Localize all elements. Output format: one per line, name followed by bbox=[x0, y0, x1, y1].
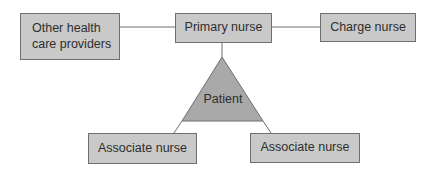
primary-nurse-label: Primary nurse bbox=[185, 20, 263, 36]
charge-nurse-node: Charge nurse bbox=[320, 13, 416, 42]
associate-nurse-right-node: Associate nurse bbox=[250, 133, 360, 163]
nursing-care-diagram: Other health care providers Primary nurs… bbox=[0, 0, 435, 175]
edge-patient-associate-left bbox=[174, 121, 182, 133]
associate-nurse-right-label: Associate nurse bbox=[261, 140, 350, 156]
other-providers-line1: Other health bbox=[32, 21, 111, 37]
charge-nurse-label: Charge nurse bbox=[330, 20, 406, 36]
associate-nurse-left-label: Associate nurse bbox=[98, 141, 187, 157]
edge-patient-associate-right bbox=[263, 121, 271, 133]
primary-nurse-node: Primary nurse bbox=[175, 13, 272, 43]
patient-label: Patient bbox=[182, 92, 264, 106]
patient-triangle bbox=[182, 57, 263, 121]
other-health-care-providers-node: Other health care providers bbox=[20, 13, 120, 60]
other-providers-line2: care providers bbox=[32, 37, 111, 53]
associate-nurse-left-node: Associate nurse bbox=[88, 133, 197, 164]
